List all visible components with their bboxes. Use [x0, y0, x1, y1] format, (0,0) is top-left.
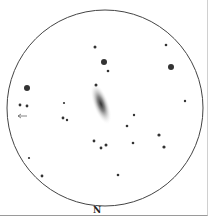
star	[165, 44, 168, 47]
star	[168, 64, 174, 70]
star	[28, 157, 30, 159]
star	[41, 175, 44, 178]
star	[157, 133, 160, 136]
arrow-icon	[18, 114, 27, 118]
star	[93, 140, 96, 143]
galaxy	[86, 81, 116, 128]
eyepiece-sketch	[0, 0, 210, 221]
star	[26, 105, 29, 108]
star	[162, 145, 165, 148]
star	[100, 147, 103, 150]
star	[62, 117, 65, 120]
north-label: N	[93, 205, 101, 215]
star	[126, 125, 129, 128]
star	[66, 119, 68, 121]
star	[105, 144, 108, 147]
star	[19, 104, 22, 107]
star	[24, 85, 30, 91]
star	[184, 100, 186, 102]
star	[107, 70, 110, 73]
star	[95, 84, 98, 87]
star	[132, 142, 135, 145]
star	[117, 174, 120, 177]
star	[94, 46, 97, 49]
star	[63, 102, 65, 104]
star	[133, 114, 135, 116]
star	[101, 59, 107, 65]
